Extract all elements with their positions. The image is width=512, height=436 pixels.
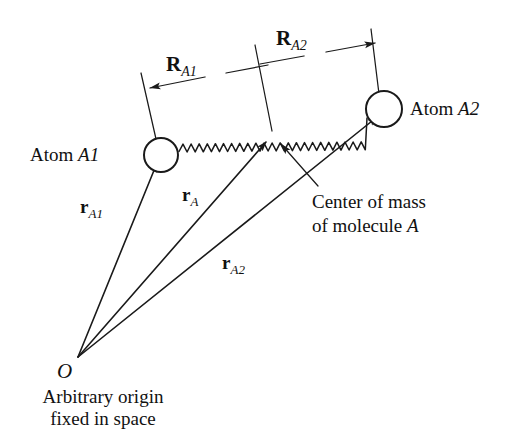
- dimension-label-RA1-subscript: A1: [181, 64, 197, 79]
- dimension-label-RA1: RA1: [166, 52, 197, 80]
- center-of-mass-callout-line1: Center of mass: [312, 190, 426, 214]
- vector-label-r-A-subscript: A: [190, 194, 198, 209]
- dimension-line-RA2-right: [326, 43, 375, 52]
- dimension-label-RA2-symbol: R: [276, 26, 291, 50]
- dimension-line-RA1-right: [226, 65, 268, 73]
- dimension-label-RA1-symbol: R: [166, 52, 181, 76]
- atom-a2-label: Atom A2: [410, 98, 479, 120]
- extension-line-right: [371, 29, 379, 94]
- atom-a1-circle: [144, 138, 178, 172]
- center-of-mass-callout-molecule-name: A: [407, 215, 419, 236]
- atoms: [144, 91, 402, 172]
- atom-a1-label-text: Atom: [30, 144, 78, 165]
- atom-a2-label-text: Atom: [410, 98, 458, 119]
- origin-caption-line1: Arbitrary origin: [0, 386, 206, 408]
- atom-a2-label-name: A2: [458, 98, 479, 119]
- dimension-label-RA2: RA2: [276, 26, 307, 54]
- vector-label-r-A2: rA2: [222, 252, 245, 278]
- extension-line-left: [141, 73, 156, 139]
- atom-a1-label-name: A1: [78, 144, 99, 165]
- vector-label-r-A2-subscript: A2: [230, 262, 245, 277]
- origin-caption-line2: fixed in space: [0, 408, 206, 430]
- center-of-mass-callout: Center of mass of molecule A: [312, 190, 426, 238]
- atom-a1-label: Atom A1: [30, 144, 99, 166]
- physics-diagram: RA1 RA2 Atom A1 Atom A2 rA1 rA rA2 Cente…: [0, 0, 512, 436]
- atom-a2-circle: [366, 91, 402, 127]
- extension-line-center: [255, 45, 272, 131]
- dimension-extension-lines: [141, 29, 379, 139]
- vector-r-A1: [78, 163, 157, 357]
- vector-label-r-A1: rA1: [80, 196, 103, 222]
- center-of-mass-callout-line2-text: of molecule: [312, 215, 407, 236]
- center-of-mass-callout-line2: of molecule A: [312, 214, 426, 238]
- vector-label-r-A1-subscript: A1: [88, 206, 103, 221]
- origin-label: O: [57, 359, 72, 383]
- vector-label-r-A: rA: [182, 184, 199, 210]
- dimension-line-RA2-left: [260, 56, 304, 64]
- vector-r-A: [78, 142, 266, 357]
- figure-canvas: [0, 0, 512, 436]
- origin-caption: Arbitrary origin fixed in space: [0, 386, 206, 430]
- dimension-label-RA2-subscript: A2: [291, 38, 307, 53]
